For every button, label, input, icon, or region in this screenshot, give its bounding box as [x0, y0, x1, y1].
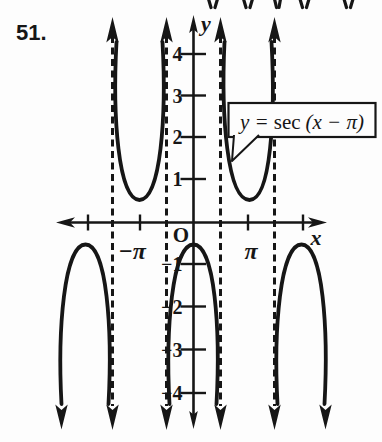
- x-axis-label: x: [310, 225, 322, 250]
- x-tick-label-pi: π: [244, 238, 258, 264]
- down-arrow-icon: [319, 405, 331, 430]
- y-tick-label-2: 2: [173, 126, 183, 148]
- secant-branch-down-neg-2pi: [60, 245, 109, 405]
- y-tick-label-neg3: −3: [161, 339, 182, 361]
- problem-number: 51.: [16, 20, 47, 45]
- down-arrow-icon: [106, 405, 118, 431]
- y-axis-label: y: [198, 11, 211, 36]
- down-arrow-icon: [55, 405, 67, 430]
- down-arrow-icon: [160, 405, 172, 431]
- down-arrow-icon: [214, 405, 226, 431]
- secant-branch-down-2pi: [276, 245, 325, 405]
- cropped-artwork-remnant: [209, 0, 354, 8]
- x-tick-label-neg-pi: −π: [118, 238, 147, 264]
- y-tick-label-neg4: −4: [161, 382, 182, 404]
- equation-lhs: y =: [238, 110, 269, 134]
- down-arrow-icon: [268, 405, 280, 431]
- origin-label: O: [173, 223, 189, 247]
- secant-branch-up-neg-pi: [115, 42, 163, 200]
- equation-fn: sec: [274, 110, 301, 134]
- textbook-figure-sec-graph: 51. y: [0, 0, 382, 442]
- callout-pointer: [232, 135, 259, 161]
- y-tick-label-4: 4: [173, 43, 183, 65]
- equation-arg: (x − π): [306, 110, 365, 134]
- equation-callout: y =sec(x − π): [229, 103, 376, 161]
- x-axis: [56, 215, 327, 231]
- y-tick-label-1: 1: [173, 168, 183, 190]
- y-tick-label-3: 3: [173, 85, 183, 107]
